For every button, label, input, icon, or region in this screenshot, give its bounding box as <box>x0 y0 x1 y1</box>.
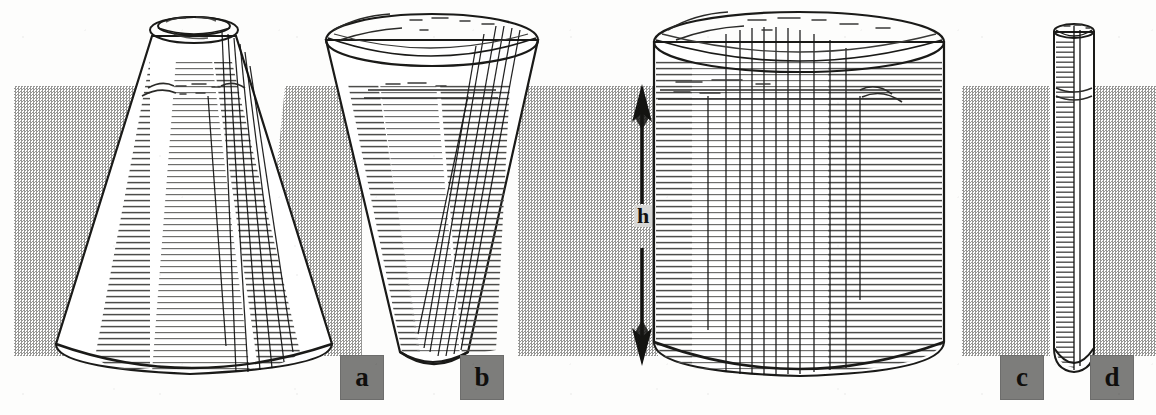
vessel-label-d: d <box>1090 355 1134 400</box>
hydrostatic-paradox-figure: h a b c d <box>0 0 1156 415</box>
vessel-label-a: a <box>340 355 384 400</box>
height-dimension: h <box>612 80 672 374</box>
vessel-d <box>1030 0 1150 400</box>
vessel-label-b: b <box>460 355 504 400</box>
height-label: h <box>634 205 652 227</box>
vessel-c <box>630 0 1030 400</box>
vessel-label-c: c <box>1000 355 1044 400</box>
vessel-b <box>300 0 600 400</box>
